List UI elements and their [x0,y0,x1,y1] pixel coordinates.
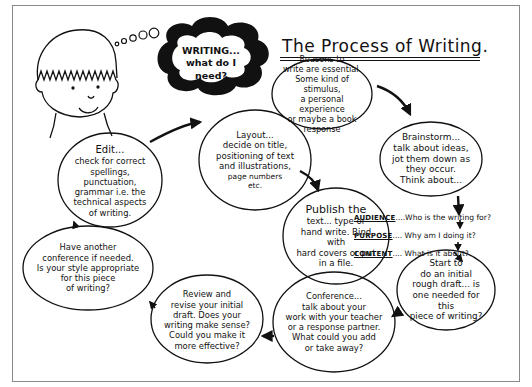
node-line: more effective? [164,341,250,351]
node-line: hand write. Bind with [291,227,381,248]
node-line: spellings, punctuation, [66,167,154,188]
node-line: of writing? [37,283,140,293]
node-line: Could you make it [164,330,250,340]
node-edit: Edit... check for correct spellings, pun… [58,136,162,226]
node-line: they occur. [392,164,470,175]
thought-line-1: WRITING... [182,45,240,56]
thought-dots-icon [115,28,159,46]
node-line: Is your style appropriate [37,263,140,273]
node-line: grammar i.e. the [66,187,154,197]
node-line: Brainstorm... [392,132,470,143]
node-line: conference if needed. [37,253,140,263]
node-review: Review and revise your initial draft. Do… [151,278,263,362]
node-line: one needed for this [405,290,487,311]
node-line: write are essential. [280,64,364,74]
node-line: or a response partner. [286,322,383,332]
node-line: page numbers [216,172,294,181]
node-line: or take away? [286,343,383,353]
node-brainstorm: Brainstorm... talk about ideas, jot them… [380,122,482,196]
node-another-conference: Have another conference if needed. Is yo… [23,228,153,308]
node-line: do an initial [405,269,487,280]
node-publish: Publish the text... type or hand write. … [283,190,389,282]
node-line: Start to [405,258,487,269]
node-line: Review and [164,289,250,299]
node-line: What could you add [286,332,383,342]
node-line: jot them down as [392,154,470,165]
node-conference: Conference... talk about your work with … [273,276,395,368]
node-line: technical aspects [66,197,154,207]
node-line: Layout... [216,130,294,140]
node-line: of writing. [66,208,154,218]
node-line: Conference... [286,291,383,301]
page-title: The Process of Writing. [282,36,488,56]
node-line: and illustrations, [216,161,294,171]
node-line: check for correct [66,156,154,166]
node-line: talk about ideas, [392,143,470,154]
node-line: hard covers or put [291,248,381,258]
node-line: rough draft... is [405,279,487,290]
node-line: piece of writing? [405,311,487,322]
node-line: decide on title, [216,140,294,150]
node-line: a personal experience [280,94,364,114]
node-line: Have another [37,242,140,252]
node-line: Reasons to [280,54,364,64]
audience-text: ....Who is the writing for? [395,213,490,222]
node-line: work with your teacher [286,312,383,322]
node-line: positioning of text [216,151,294,161]
node-line: in a file. [291,258,381,268]
boy-face-icon [36,30,118,138]
node-line: talk about your [286,302,383,312]
node-line: etc. [216,181,294,190]
node-draft: Start to do an initial rough draft... is… [397,250,495,330]
node-line: Edit... [66,144,154,156]
thought-line-2: what do I need? [186,57,236,80]
node-line: Think about... [392,175,470,186]
node-line: text... type or [291,216,381,226]
node-line: revise your initial [164,300,250,310]
node-line: Some kind of stimulus, [280,74,364,94]
node-line: Publish the [291,203,381,216]
node-line: writing make sense? [164,320,250,330]
thought-bubble-text: WRITING... what do I need? [170,45,252,82]
purpose-text: .... Why am I doing it? [393,231,476,240]
node-line: for this piece [37,273,140,283]
node-line: draft. Does your [164,310,250,320]
